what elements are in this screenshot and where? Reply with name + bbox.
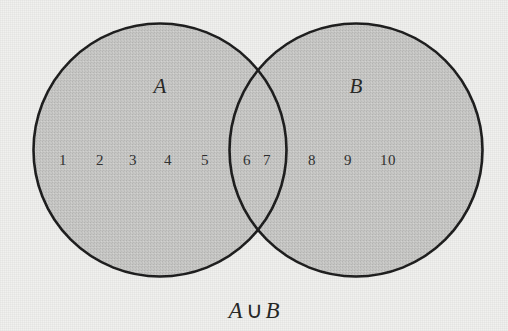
element-5: 5 bbox=[195, 153, 215, 168]
element-4: 4 bbox=[158, 153, 178, 168]
element-7: 7 bbox=[258, 153, 276, 168]
set-b-region-fill bbox=[230, 24, 482, 276]
union-operator-symbol: ∪ bbox=[243, 298, 266, 323]
figure-caption: A∪B bbox=[0, 297, 508, 324]
caption-set-b: B bbox=[266, 298, 280, 323]
element-2: 2 bbox=[90, 153, 110, 168]
element-1: 1 bbox=[53, 153, 73, 168]
element-10: 10 bbox=[375, 153, 401, 168]
element-9: 9 bbox=[338, 153, 358, 168]
element-6: 6 bbox=[238, 153, 256, 168]
element-3: 3 bbox=[123, 153, 143, 168]
caption-set-a: A bbox=[228, 298, 242, 323]
venn-diagram-figure: A B 1 2 3 4 5 6 7 8 9 10 A∪B bbox=[0, 0, 508, 331]
element-8: 8 bbox=[302, 153, 322, 168]
set-label-b: B bbox=[341, 76, 371, 97]
set-label-a: A bbox=[145, 76, 175, 97]
